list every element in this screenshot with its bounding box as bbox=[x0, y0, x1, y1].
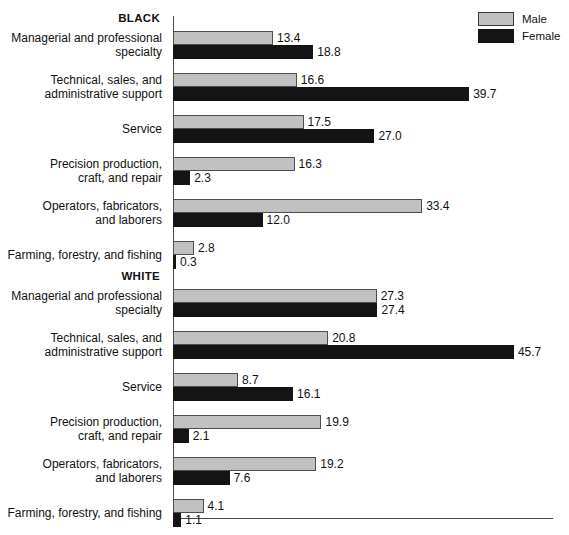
category-label: Farming, forestry, and fishing bbox=[0, 506, 168, 520]
category-label: Operators, fabricators,and laborers bbox=[0, 457, 168, 485]
grouped-bar-chart: Male Female BLACK WHITE Managerial and p… bbox=[0, 0, 569, 535]
bar-male bbox=[173, 457, 316, 471]
bar-value-label: 17.5 bbox=[308, 115, 331, 129]
category-label-line: administrative support bbox=[0, 345, 162, 359]
bar-female bbox=[173, 471, 230, 485]
bar-male bbox=[173, 415, 321, 429]
bar-male bbox=[173, 373, 238, 387]
bar-value-label: 2.3 bbox=[194, 171, 211, 185]
bar-value-label: 2.1 bbox=[193, 429, 210, 443]
category-label-line: craft, and repair bbox=[0, 429, 162, 443]
bar-value-label: 1.1 bbox=[185, 513, 202, 527]
category-label-line: craft, and repair bbox=[0, 171, 162, 185]
category-label-line: Operators, fabricators, bbox=[0, 457, 162, 471]
bar-value-label: 39.7 bbox=[473, 87, 496, 101]
bar-female bbox=[173, 387, 293, 401]
bar-male bbox=[173, 199, 422, 213]
category-label-line: Technical, sales, and bbox=[0, 331, 162, 345]
category-label: Precision production,craft, and repair bbox=[0, 415, 168, 443]
category-label: Technical, sales, andadministrative supp… bbox=[0, 331, 168, 359]
category-label-line: Precision production, bbox=[0, 415, 162, 429]
bar-value-label: 45.7 bbox=[518, 345, 541, 359]
bar-male bbox=[173, 331, 328, 345]
bar-female bbox=[173, 303, 377, 317]
bar-male bbox=[173, 241, 194, 255]
category-label: Managerial and professionalspecialty bbox=[0, 31, 168, 59]
category-label-line: Operators, fabricators, bbox=[0, 199, 162, 213]
bar-value-label: 0.3 bbox=[180, 255, 197, 269]
category-label-line: Farming, forestry, and fishing bbox=[0, 248, 162, 262]
bar-value-label: 19.9 bbox=[325, 415, 348, 429]
category-label: Service bbox=[0, 380, 168, 394]
bar-value-label: 16.1 bbox=[297, 387, 320, 401]
bar-value-label: 16.6 bbox=[301, 73, 324, 87]
bar-value-label: 27.3 bbox=[381, 289, 404, 303]
bar-male bbox=[173, 157, 295, 171]
bar-male bbox=[173, 115, 304, 129]
chart-legend: Male Female bbox=[478, 10, 569, 44]
category-label-line: specialty bbox=[0, 45, 162, 59]
bar-female bbox=[173, 255, 176, 269]
bar-value-label: 18.8 bbox=[317, 45, 340, 59]
bar-male bbox=[173, 73, 297, 87]
bar-value-label: 8.7 bbox=[242, 373, 259, 387]
bar-female bbox=[173, 345, 514, 359]
category-label: Technical, sales, andadministrative supp… bbox=[0, 73, 168, 101]
bar-female bbox=[173, 429, 189, 443]
category-label-line: Managerial and professional bbox=[0, 289, 162, 303]
bar-value-label: 16.3 bbox=[299, 157, 322, 171]
bar-female bbox=[173, 129, 374, 143]
category-label-line: Precision production, bbox=[0, 157, 162, 171]
category-label: Service bbox=[0, 122, 168, 136]
chart-baseline bbox=[173, 518, 553, 519]
category-label: Operators, fabricators,and laborers bbox=[0, 199, 168, 227]
category-label: Managerial and professionalspecialty bbox=[0, 289, 168, 317]
legend-label-male: Male bbox=[522, 12, 547, 26]
group-heading-white: WHITE bbox=[0, 270, 168, 282]
category-label-line: and laborers bbox=[0, 471, 162, 485]
bar-value-label: 13.4 bbox=[277, 31, 300, 45]
category-label: Farming, forestry, and fishing bbox=[0, 248, 168, 262]
bar-value-label: 12.0 bbox=[267, 213, 290, 227]
category-label-line: specialty bbox=[0, 303, 162, 317]
category-label-line: Managerial and professional bbox=[0, 31, 162, 45]
category-label: Precision production,craft, and repair bbox=[0, 157, 168, 185]
category-label-line: Service bbox=[0, 380, 162, 394]
bar-value-label: 27.4 bbox=[381, 303, 404, 317]
bar-male bbox=[173, 499, 204, 513]
bar-value-label: 7.6 bbox=[234, 471, 251, 485]
legend-item-male: Male bbox=[478, 10, 569, 27]
category-label-line: administrative support bbox=[0, 87, 162, 101]
bar-female bbox=[173, 87, 469, 101]
bar-male bbox=[173, 31, 273, 45]
bar-value-label: 2.8 bbox=[198, 241, 215, 255]
category-label-line: Farming, forestry, and fishing bbox=[0, 506, 162, 520]
legend-item-female: Female bbox=[478, 27, 569, 44]
bar-value-label: 4.1 bbox=[208, 499, 225, 513]
bar-value-label: 33.4 bbox=[426, 199, 449, 213]
bar-value-label: 27.0 bbox=[378, 129, 401, 143]
bar-value-label: 20.8 bbox=[332, 331, 355, 345]
legend-label-female: Female bbox=[522, 29, 560, 43]
female-swatch-icon bbox=[478, 29, 514, 43]
bar-male bbox=[173, 289, 377, 303]
group-heading-black: BLACK bbox=[0, 12, 168, 24]
category-label-line: Technical, sales, and bbox=[0, 73, 162, 87]
bar-female bbox=[173, 45, 313, 59]
bar-female bbox=[173, 171, 190, 185]
bar-value-label: 19.2 bbox=[320, 457, 343, 471]
category-label-line: Service bbox=[0, 122, 162, 136]
category-label-line: and laborers bbox=[0, 213, 162, 227]
bar-female bbox=[173, 513, 181, 527]
bar-female bbox=[173, 213, 263, 227]
male-swatch-icon bbox=[478, 12, 514, 26]
